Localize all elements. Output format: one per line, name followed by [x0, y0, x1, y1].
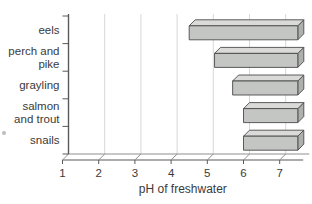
floor-tick-ph-2: [99, 154, 105, 160]
bar-top-perch-and-pike: [215, 47, 304, 53]
bar-grayling: [233, 81, 298, 95]
bar-top-eels: [189, 20, 304, 26]
floor-tick-ph-5: [207, 154, 213, 160]
ph-tolerance-bar-chart: eelsperch andpikegraylingsalmonand trout…: [0, 0, 312, 204]
category-label-4: snails: [30, 134, 60, 146]
bar-top-grayling: [233, 75, 304, 81]
x-tick-label-6: 6: [240, 167, 246, 179]
bar-perch-and-pike: [215, 53, 298, 67]
category-label-0: eels: [38, 24, 59, 36]
chart-container: eelsperch andpikegraylingsalmonand trout…: [0, 0, 312, 204]
floor-tick-ph-7: [280, 154, 286, 160]
bar-eels: [189, 26, 298, 40]
category-label-2: grayling: [19, 79, 59, 91]
category-label-3: salmon: [22, 100, 59, 112]
x-tick-label-4: 4: [168, 167, 175, 179]
x-tick-label-3: 3: [132, 167, 138, 179]
floor-tick-ph-3: [135, 154, 141, 160]
x-tick-label-5: 5: [204, 167, 210, 179]
x-axis-title: pH of freshwater: [139, 182, 227, 196]
category-label-1: pike: [38, 58, 59, 70]
x-tick-label-1: 1: [59, 167, 65, 179]
floor-tick-ph-1: [63, 154, 69, 160]
x-tick-label-2: 2: [95, 167, 101, 179]
category-label-3: and trout: [14, 113, 60, 125]
floor-tick-ph-4: [171, 154, 177, 160]
floor-tick-ph-6: [244, 154, 250, 160]
category-label-1: perch and: [8, 45, 59, 57]
scan-speck: [2, 131, 6, 135]
bar-top-snails: [244, 130, 304, 136]
bar-salmon-and-trout: [244, 109, 298, 123]
bar-top-salmon-and-trout: [244, 103, 304, 109]
x-tick-label-7: 7: [276, 167, 282, 179]
bar-snails: [244, 136, 298, 150]
